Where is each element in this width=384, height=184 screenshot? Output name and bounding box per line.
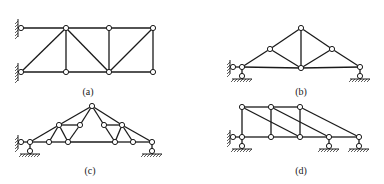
truss-member [68, 125, 80, 142]
wall-hatch [15, 80, 18, 83]
truss-joint [130, 139, 135, 144]
pin-roller-left-support-icon [227, 130, 252, 152]
wall-hatch [15, 36, 18, 39]
roller-node [239, 143, 244, 148]
roller-node [356, 143, 361, 148]
roller-node [239, 73, 244, 78]
truss-member [270, 28, 301, 49]
truss-member [92, 106, 122, 125]
truss-joint [77, 122, 82, 127]
truss-member [59, 106, 92, 125]
panel-label-d: (d) [295, 165, 307, 177]
wall-pin-support-icon [15, 19, 18, 39]
panel-label-b: (b) [295, 86, 307, 98]
truss-member [300, 107, 359, 137]
panel-label-c: (c) [84, 165, 95, 177]
truss-member [122, 125, 152, 142]
truss-joint [297, 134, 302, 139]
truss-joint [329, 46, 334, 51]
truss-joint [298, 25, 303, 30]
truss-member [21, 28, 66, 72]
truss-joint [56, 122, 61, 127]
truss-joint [106, 25, 111, 30]
roller-node [230, 134, 235, 139]
truss-joint [150, 69, 155, 74]
roller-node [18, 139, 23, 144]
truss-member [109, 28, 153, 72]
roller-node [357, 73, 362, 78]
truss-joint [46, 139, 51, 144]
truss-joint [239, 64, 244, 69]
truss-joint [239, 104, 244, 109]
roller-node [230, 64, 235, 69]
truss-joint [298, 65, 303, 70]
truss-joint [101, 122, 106, 127]
truss-joint [27, 139, 32, 144]
wall-hatch [15, 149, 18, 152]
truss-joint [268, 104, 273, 109]
truss-member [242, 49, 270, 67]
truss-joint [63, 25, 68, 30]
truss-member [301, 28, 332, 49]
wall-pin-support-icon [15, 63, 18, 83]
truss-panel-d [227, 104, 369, 152]
truss-joint [297, 104, 302, 109]
wall-hatch [227, 74, 230, 77]
truss-panel-c [15, 103, 162, 157]
truss-joint [326, 134, 331, 139]
panel-label-a: (a) [82, 86, 93, 98]
truss-member [301, 67, 360, 68]
truss-member [92, 106, 104, 125]
truss-joint [239, 134, 244, 139]
roller-node [149, 148, 154, 153]
truss-joint [18, 25, 23, 30]
wall-hatch [227, 144, 230, 147]
truss-joint [267, 46, 272, 51]
truss-member [301, 49, 332, 68]
truss-figure: (a) (b) (c) (d) [0, 0, 384, 184]
truss-member [270, 49, 301, 68]
truss-panel-b [227, 25, 370, 82]
truss-joint [63, 69, 68, 74]
truss-joint [106, 69, 111, 74]
truss-joint [65, 139, 70, 144]
truss-joint [89, 103, 94, 108]
truss-member [66, 28, 109, 72]
truss-joint [356, 134, 361, 139]
truss-joint [268, 134, 273, 139]
roller-node [326, 143, 331, 148]
truss-joint [149, 139, 154, 144]
truss-panel-a [15, 19, 156, 83]
truss-member [242, 67, 301, 68]
truss-joint [357, 64, 362, 69]
truss-joint [119, 122, 124, 127]
truss-joint [112, 139, 117, 144]
roller-node [27, 148, 32, 153]
truss-member [332, 49, 360, 67]
truss-joint [150, 25, 155, 30]
truss-joint [18, 69, 23, 74]
